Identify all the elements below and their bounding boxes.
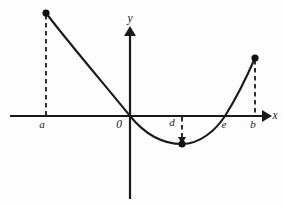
endpoint-dot-b — [251, 54, 258, 61]
tick-label-d: d — [169, 116, 175, 128]
endpoint-dot-a — [42, 9, 49, 16]
tick-label-e: e — [222, 118, 227, 130]
minimum-dot-d — [178, 140, 185, 147]
x-axis-label: x — [271, 109, 278, 121]
y-axis-arrow-icon — [124, 26, 136, 36]
x-axis-arrow-icon — [262, 110, 272, 122]
origin-label: 0 — [116, 118, 122, 130]
tick-label-a: a — [39, 118, 45, 130]
x-axis — [10, 110, 272, 122]
tick-label-b: b — [250, 118, 256, 130]
y-axis-label: y — [126, 12, 133, 25]
function-graph-figure: a 0 d e b x y — [0, 0, 283, 206]
